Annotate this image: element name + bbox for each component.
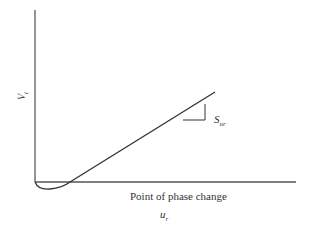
slope-label: Sur: [214, 113, 226, 128]
x-axis-symbol: ur: [160, 208, 168, 223]
x-axis-label: Point of phase change: [130, 190, 227, 202]
response-curve: [35, 92, 215, 189]
slope-triangle: [183, 104, 205, 120]
y-axis-label: Vt: [16, 92, 30, 100]
